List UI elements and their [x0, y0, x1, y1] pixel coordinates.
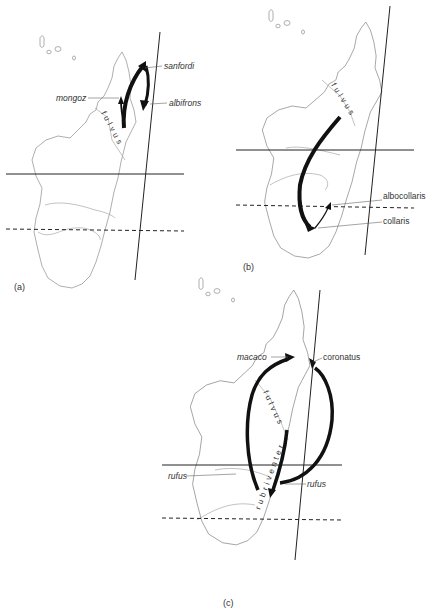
madagascar-outline-a — [32, 52, 136, 288]
river-c-2 — [197, 504, 255, 520]
panel-label-b: (b) — [243, 262, 254, 272]
label-coronatus: coronatus — [323, 352, 360, 362]
figure-canvas: sanfordi albifrons mongoz fulvus (a) alb… — [0, 0, 432, 616]
arrow-collaris-to-albocollaris — [315, 208, 328, 228]
islands-c — [199, 278, 235, 302]
panel-label-a: (a) — [14, 282, 25, 292]
arrow-fulvus-to-collaris — [299, 117, 340, 227]
label-albifrons: albifrons — [169, 98, 202, 108]
dashed-parallel-a — [6, 229, 184, 231]
islands-a — [40, 36, 76, 60]
label-macaco: macaco — [237, 352, 267, 362]
leader-albocollaris — [332, 200, 382, 205]
arrow-rufus-to-coronatus — [280, 368, 332, 483]
panel-a: sanfordi albifrons mongoz fulvus (a) — [6, 32, 202, 292]
leader-rufus-west — [186, 474, 236, 476]
arrowhead-macaco — [285, 353, 295, 362]
arrowhead-albifrons — [140, 100, 149, 111]
river-a-1 — [45, 203, 115, 218]
arrowhead-coronatus — [309, 358, 316, 369]
arrowhead-albocollaris — [325, 202, 331, 210]
arrow-sanfordi-to-albifrons — [145, 66, 148, 105]
panel-b: albocollaris collaris fulvus (b) — [236, 6, 426, 272]
dashed-parallel-c — [162, 518, 342, 520]
label-rufus-west: rufus — [168, 471, 188, 481]
label-sanfordi: sanfordi — [164, 61, 195, 71]
dashed-parallel-b — [236, 205, 414, 208]
madagascar-outline-c — [190, 290, 310, 545]
arrow-fulvus-to-sanfordi — [124, 66, 143, 128]
leader-coronatus — [313, 358, 322, 362]
range-label-fulvus-b: fulvus — [329, 81, 357, 119]
label-albocollaris: albocollaris — [383, 191, 426, 201]
islands-b — [269, 10, 305, 34]
range-label-fulvus-c: fulvus — [261, 389, 286, 428]
panel-c: coronatus macaco rufus rufus fulvus rubr… — [162, 278, 360, 608]
arrowhead-mongoz — [118, 96, 124, 104]
river-c-1 — [215, 468, 272, 478]
label-mongoz: mongoz — [56, 93, 87, 103]
label-collaris: collaris — [383, 216, 409, 226]
label-rufus-east: rufus — [307, 479, 327, 489]
leader-collaris — [318, 222, 382, 228]
panel-label-c: (c) — [223, 598, 234, 608]
